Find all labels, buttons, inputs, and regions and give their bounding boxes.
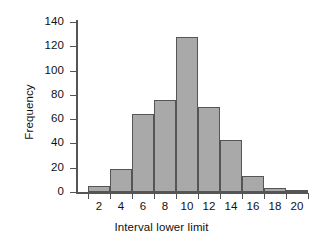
y-axis-tick xyxy=(70,168,77,169)
y-axis-tick xyxy=(70,143,77,144)
histogram-chart: Frequency 020406080100120140 24681012141… xyxy=(0,0,323,250)
histogram-bar xyxy=(132,114,154,192)
x-axis-tick xyxy=(308,193,309,199)
y-axis-tick-label: 80 xyxy=(36,89,64,101)
y-axis-tick xyxy=(70,22,77,23)
y-axis-tick-label: 120 xyxy=(36,40,64,52)
y-axis-tick-label: 60 xyxy=(36,113,64,125)
x-axis-tick xyxy=(176,193,177,199)
histogram-bar xyxy=(198,107,220,192)
y-axis-title-container: Frequency xyxy=(14,20,34,192)
x-axis-tick-label: 18 xyxy=(263,200,287,212)
x-axis-tick xyxy=(110,193,111,199)
x-axis-tick xyxy=(242,193,243,199)
x-axis-tick xyxy=(198,193,199,199)
x-axis-tick-label: 8 xyxy=(153,200,177,212)
y-axis-tick-label: 0 xyxy=(36,186,64,198)
plot-area xyxy=(77,20,307,192)
y-axis-tick-label: 100 xyxy=(36,65,64,77)
histogram-bar xyxy=(88,186,110,192)
x-axis-tick-label: 16 xyxy=(241,200,265,212)
y-axis-tick xyxy=(70,192,77,193)
x-axis-title: Interval lower limit xyxy=(0,221,323,233)
y-axis-tick-label: 140 xyxy=(36,16,64,28)
histogram-bar xyxy=(176,37,198,192)
y-axis-tick-label: 40 xyxy=(36,137,64,149)
x-axis-tick-label: 20 xyxy=(285,200,309,212)
histogram-bar xyxy=(154,100,176,192)
x-axis-tick-label: 2 xyxy=(87,200,111,212)
x-axis-tick xyxy=(132,193,133,199)
histogram-bar xyxy=(264,188,286,192)
y-axis-tick xyxy=(70,119,77,120)
y-axis-tick xyxy=(70,95,77,96)
y-axis-tick xyxy=(70,46,77,47)
histogram-bar xyxy=(220,140,242,192)
x-axis-tick xyxy=(286,193,287,199)
x-axis-tick xyxy=(264,193,265,199)
histogram-bar xyxy=(286,190,308,192)
x-axis-tick xyxy=(154,193,155,199)
x-axis-tick-label: 14 xyxy=(219,200,243,212)
x-axis-tick-label: 10 xyxy=(175,200,199,212)
x-axis-tick-label: 4 xyxy=(109,200,133,212)
y-axis-tick xyxy=(70,71,77,72)
x-axis-tick-label: 6 xyxy=(131,200,155,212)
histogram-bar xyxy=(242,176,264,192)
y-axis-tick-label: 20 xyxy=(36,162,64,174)
x-axis-tick xyxy=(220,193,221,199)
x-axis-tick xyxy=(88,193,89,199)
histogram-bar xyxy=(110,169,132,192)
x-axis-tick-label: 12 xyxy=(197,200,221,212)
y-axis-title: Frequency xyxy=(23,37,35,187)
